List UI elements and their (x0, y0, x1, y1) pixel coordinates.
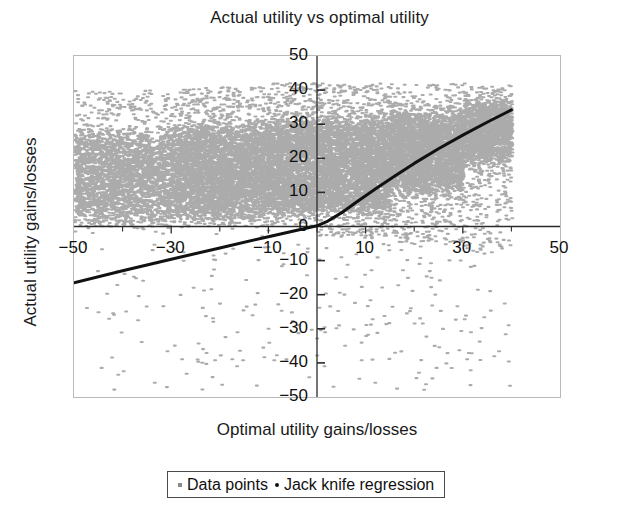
x-tick-label: 50 (550, 238, 569, 258)
y-tick-label: −30 (264, 318, 308, 338)
y-tick-label: −20 (264, 284, 308, 304)
legend-item-data-points: Data points (178, 476, 268, 494)
chart-figure: Actual utility vs optimal utility Actual… (0, 0, 639, 519)
plot-area (73, 55, 561, 398)
data-points-marker-icon (178, 483, 182, 487)
legend-item-regression: Jack knife regression (275, 476, 434, 494)
regression-marker-icon (275, 483, 279, 487)
y-tick-label: −40 (264, 352, 308, 372)
y-tick-label: 30 (264, 113, 308, 133)
x-tick-label: −30 (156, 238, 185, 258)
legend-label-data-points: Data points (187, 476, 268, 494)
x-tick-label: 10 (355, 238, 374, 258)
plot-canvas (74, 56, 560, 397)
y-tick-label: −50 (264, 386, 308, 406)
x-tick-label: −50 (59, 238, 88, 258)
legend-label-regression: Jack knife regression (284, 476, 434, 494)
x-tick-label: 30 (452, 238, 471, 258)
y-axis-title: Actual utility gains/losses (21, 97, 41, 367)
chart-title: Actual utility vs optimal utility (0, 8, 639, 28)
y-tick-label: 50 (264, 45, 308, 65)
y-tick-label: 40 (264, 79, 308, 99)
y-tick-label: −10 (264, 250, 308, 270)
y-tick-label: 0 (264, 216, 308, 236)
chart-legend: Data points Jack knife regression (167, 471, 445, 498)
y-tick-label: 20 (264, 147, 308, 167)
x-axis-title: Optimal utility gains/losses (73, 420, 561, 440)
y-tick-label: 10 (264, 181, 308, 201)
